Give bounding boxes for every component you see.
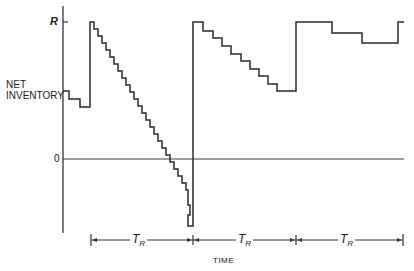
arrow-3-left (297, 238, 302, 242)
arrow-3-right (397, 238, 402, 242)
y-axis-label-line1: NET (6, 79, 64, 90)
y-axis-label: NET INVENTORY (6, 79, 64, 101)
arrow-1-right (187, 238, 192, 242)
period-label-1: TR (130, 232, 147, 248)
period-label-3: TR (338, 232, 355, 248)
inventory-diagram (0, 0, 414, 271)
y-axis-label-line2: INVENTORY (6, 90, 64, 101)
period-subscript: R (139, 239, 145, 248)
arrow-1-left (92, 238, 97, 242)
inventory-path (63, 22, 404, 226)
arrow-2-right (290, 238, 295, 242)
period-subscript: R (347, 239, 353, 248)
arrow-2-left (194, 238, 199, 242)
x-axis-label: TIME (213, 256, 234, 265)
y-tick-r: R (50, 15, 58, 27)
y-tick-zero: 0 (54, 153, 60, 164)
period-label-2: TR (236, 232, 253, 248)
period-subscript: R (245, 239, 251, 248)
